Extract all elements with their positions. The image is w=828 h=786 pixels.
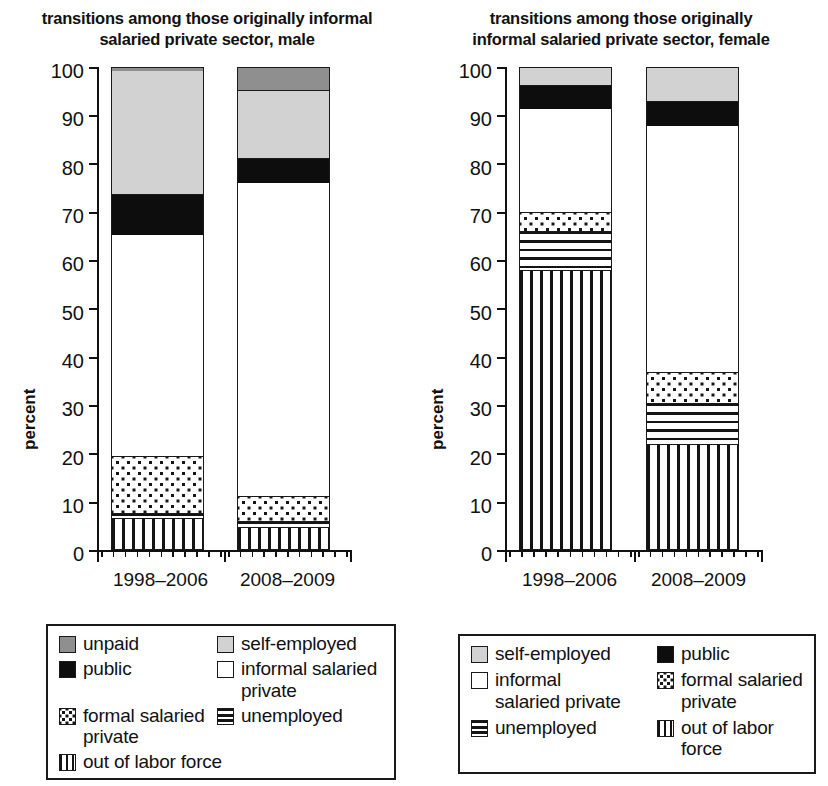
- y-tick-label-0-female: 0: [430, 544, 492, 564]
- x-tick-minor: [721, 550, 723, 557]
- bar-segment-unpaid: [238, 68, 329, 91]
- bar-segment-self-employed: [647, 68, 738, 102]
- x-tick-minor: [101, 550, 103, 557]
- y-tick-label-10-male: 10: [22, 496, 84, 516]
- x-tick-minor: [220, 550, 222, 557]
- y-tick-label-30-male: 30: [22, 399, 84, 419]
- x-tick-minor: [252, 550, 254, 557]
- formal-salaried-private-swatch-icon: [59, 708, 76, 725]
- legend-item-public[interactable]: public: [657, 643, 805, 664]
- public-swatch-icon: [657, 646, 674, 663]
- x-tick-minor: [346, 550, 348, 557]
- x-tick-minor: [275, 550, 277, 557]
- informal-salaried-private-swatch-icon: [217, 661, 234, 678]
- legend-item-informal-salaried-private[interactable]: informal salaried private: [471, 669, 651, 712]
- x-tick-mark: [350, 550, 352, 562]
- x-tick-minor: [509, 550, 511, 557]
- formal-salaried-private-swatch-icon: [657, 672, 674, 689]
- x-tick-minor: [149, 550, 151, 557]
- legend-label-olf-line2: force: [681, 738, 722, 759]
- legend-male: unpaid self-employed public informal sal…: [46, 624, 396, 780]
- x-tick-minor: [228, 550, 230, 557]
- bar-female-1998-2006[interactable]: [519, 67, 612, 550]
- x-tick-minor: [533, 550, 535, 557]
- legend-label-formal-line2: private: [83, 726, 139, 747]
- legend-item-self-employed[interactable]: self-employed: [471, 643, 651, 664]
- legend-label-unemployed: unemployed: [495, 717, 597, 738]
- chart-title-female: transitions among those originally infor…: [414, 0, 828, 50]
- chart-title-male: transitions among those originally infor…: [0, 0, 414, 50]
- x-tick-minor: [662, 550, 664, 557]
- x-tick-minor: [161, 550, 163, 557]
- y-tick-label-20-male: 20: [22, 448, 84, 468]
- legend-item-self-employed[interactable]: self-employed: [217, 633, 385, 654]
- unemployed-swatch-icon: [217, 708, 234, 725]
- chart-panel-male: transitions among those originally infor…: [0, 0, 414, 610]
- x-tick-minor: [606, 550, 608, 557]
- y-tick-label-40-male: 40: [22, 351, 84, 371]
- y-axis-label-female: percent: [428, 389, 448, 450]
- x-tick-minor: [172, 550, 174, 557]
- bar-segment-informal-salaried-private: [647, 126, 738, 372]
- bar-female-2008-2009[interactable]: [646, 67, 739, 550]
- out-of-labor-force-swatch-icon: [657, 720, 674, 737]
- bar-male-1998-2006[interactable]: [111, 67, 204, 550]
- legend-item-formal-salaried-private[interactable]: formal salaried private: [657, 669, 805, 712]
- legend-item-formal-salaried-private[interactable]: formal salaried private: [59, 705, 211, 748]
- bar-segment-self-employed: [238, 91, 329, 159]
- legend-item-out-of-labor-force[interactable]: out of labor force: [59, 751, 385, 772]
- legend-item-unemployed[interactable]: unemployed: [217, 705, 385, 748]
- x-tick-minor: [240, 550, 242, 557]
- x-tick-minor: [630, 550, 632, 557]
- bar-segment-out-of-labor-force: [238, 528, 329, 550]
- x-tick-mark: [634, 550, 636, 562]
- legend-item-public[interactable]: public: [59, 658, 211, 701]
- y-tick-label-70-female: 70: [430, 206, 492, 226]
- y-tick-label-20-female: 20: [430, 448, 492, 468]
- bar-male-2008-2009[interactable]: [237, 67, 330, 550]
- y-axis-label-male: percent: [20, 389, 40, 450]
- legend-label-olf-line1: out of labor: [681, 717, 774, 738]
- legend-item-out-of-labor-force[interactable]: out of labor force: [657, 717, 805, 760]
- x-tick-minor: [745, 550, 747, 557]
- x-tick-minor: [733, 550, 735, 557]
- x-tick-minor: [125, 550, 127, 557]
- legend-label-out-of-labor-force: out of labor force: [83, 751, 222, 772]
- chart-title-male-line1: transitions among those originally infor…: [16, 8, 398, 29]
- legend-label-public: public: [83, 658, 131, 679]
- y-tick-label-50-female: 50: [430, 303, 492, 323]
- legend-female: self-employed public informal salaried p…: [458, 634, 816, 774]
- legend-item-unpaid[interactable]: unpaid: [59, 633, 211, 654]
- public-swatch-icon: [59, 661, 76, 678]
- x-tick-minor: [698, 550, 700, 557]
- legend-label-informal-line2: salaried private: [495, 691, 621, 712]
- legend-label-formal-line1: formal salaried: [83, 705, 205, 726]
- y-tick-label-90-female: 90: [430, 109, 492, 129]
- x-category-label-2008-2009-male: 2008–2009: [224, 570, 351, 589]
- y-axis-line-female: [505, 67, 507, 552]
- x-tick-minor: [311, 550, 313, 557]
- plot-area-female: percent 100 90 80 70 60 50 40 30 20 10 0: [414, 50, 828, 610]
- x-tick-minor: [709, 550, 711, 557]
- legend-label-formal-line2: private: [681, 691, 737, 712]
- x-tick-minor: [674, 550, 676, 557]
- bar-segment-public: [238, 159, 329, 183]
- legend-item-informal-salaried-private[interactable]: informal salaried private: [217, 658, 385, 701]
- chart-title-male-line2: salaried private sector, male: [16, 29, 398, 50]
- x-tick-minor: [618, 550, 620, 557]
- unemployed-swatch-icon: [471, 720, 488, 737]
- x-tick-minor: [299, 550, 301, 557]
- x-tick-minor: [757, 550, 759, 557]
- unpaid-swatch-icon: [59, 636, 76, 653]
- legend-item-unemployed[interactable]: unemployed: [471, 717, 651, 760]
- y-tick-label-40-female: 40: [430, 351, 492, 371]
- bar-segment-public: [112, 195, 203, 235]
- legend-label-unpaid: unpaid: [83, 633, 139, 654]
- bar-segment-formal-salaried-private: [647, 373, 738, 404]
- bar-segment-formal-salaried-private: [112, 457, 203, 515]
- legend-label-informal-line2: private: [241, 680, 297, 701]
- y-tick-label-0-male: 0: [22, 544, 84, 564]
- bar-segment-formal-salaried-private: [238, 497, 329, 523]
- bar-segment-public: [647, 102, 738, 126]
- x-tick-minor: [137, 550, 139, 557]
